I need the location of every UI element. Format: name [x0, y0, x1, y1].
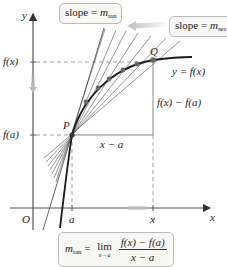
diagram-canvas [0, 0, 227, 267]
curve-label: y = f(x) [172, 66, 205, 77]
fx-tick-label: f(x) [3, 56, 18, 67]
point-q-label: Q [150, 46, 158, 57]
arrow-left-icon-x [128, 206, 146, 210]
tangent-slope-callout: slope = mtan [59, 3, 122, 24]
point-p-label: P [63, 120, 70, 131]
arrow-down-icon [31, 72, 35, 88]
fa-tick-label: f(a) [3, 129, 19, 140]
a-tick-label: a [69, 214, 75, 225]
curve-f [60, 57, 192, 228]
x-tick-label: x [150, 214, 155, 225]
y-axis-label: y [22, 10, 27, 21]
motion-arrows [29, 21, 170, 210]
tangent-slope-formula: mtan = limx→a f(x) − f(a)x − a [58, 232, 174, 267]
secant-slope-callout: slope = msec [169, 16, 227, 37]
point-p [69, 132, 74, 137]
rise-label: f(x) − f(a) [157, 97, 201, 108]
x-axis-label: x [210, 212, 215, 223]
run-label: x − a [100, 139, 123, 150]
arrow-left-icon [133, 24, 170, 26]
guide-lines [36, 62, 153, 205]
origin-label: O [22, 214, 30, 225]
point-q [150, 57, 156, 63]
axes [10, 14, 210, 230]
